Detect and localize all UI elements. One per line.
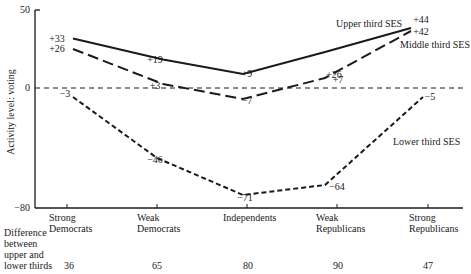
x-label-weak-democrats-2: Democrats bbox=[137, 223, 180, 234]
legend-middle-third-ses: Middle third SES bbox=[400, 39, 470, 50]
difference-row-label: Difference between upper and lower third… bbox=[4, 227, 52, 271]
label-lower-3: −64 bbox=[329, 181, 345, 192]
x-label-independents: Independents bbox=[223, 212, 276, 223]
x-category-labels: Strong Democrats Weak Democrats Independ… bbox=[49, 212, 459, 234]
difference-value-weak-republicans: 90 bbox=[333, 260, 343, 271]
series-lower-third-ses bbox=[73, 97, 423, 195]
x-label-strong-republicans-2: Republicans bbox=[409, 223, 459, 234]
label-upper-1: +19 bbox=[147, 54, 163, 65]
label-upper-2: +9 bbox=[242, 68, 253, 79]
x-label-strong-democrats-1: Strong bbox=[49, 212, 76, 223]
difference-value-weak-democrats: 65 bbox=[152, 260, 162, 271]
difference-label-line-3: upper and bbox=[4, 249, 44, 260]
label-lower-0: −3 bbox=[60, 88, 71, 99]
x-label-weak-republicans-1: Weak bbox=[316, 212, 339, 223]
y-tick-label-neg80: −80 bbox=[14, 202, 30, 213]
difference-value-strong-democrats: 36 bbox=[64, 260, 74, 271]
difference-label-line-4: lower thirds bbox=[4, 260, 52, 271]
label-middle-0: +26 bbox=[49, 43, 65, 54]
label-upper-4: +44 bbox=[413, 14, 429, 25]
y-axis-label: Activity level: voting bbox=[5, 69, 16, 155]
difference-label-line-2: between bbox=[4, 238, 37, 249]
label-middle-1: +3 bbox=[150, 80, 161, 91]
label-lower-4: −5 bbox=[425, 91, 436, 102]
label-lower-2: −71 bbox=[237, 192, 253, 203]
x-label-weak-democrats-1: Weak bbox=[137, 212, 160, 223]
difference-row-values: 36 65 80 90 47 bbox=[64, 260, 433, 271]
x-label-strong-democrats-2: Democrats bbox=[49, 223, 92, 234]
legend-upper-third-ses: Upper third SES bbox=[336, 18, 402, 29]
difference-label-line-1: Difference bbox=[4, 227, 47, 238]
label-middle-2: −7 bbox=[242, 95, 253, 106]
y-tick-label-50: 50 bbox=[20, 4, 30, 15]
label-middle-4: +42 bbox=[413, 26, 429, 37]
label-middle-3: +7 bbox=[333, 74, 344, 85]
difference-value-strong-republicans: 47 bbox=[423, 260, 433, 271]
y-tick-label-0: 0 bbox=[25, 82, 30, 93]
x-label-strong-republicans-1: Strong bbox=[409, 212, 436, 223]
difference-value-independents: 80 bbox=[243, 260, 253, 271]
legend-lower-third-ses: Lower third SES bbox=[393, 136, 460, 147]
label-lower-1: −46 bbox=[147, 154, 163, 165]
x-label-weak-republicans-2: Republicans bbox=[316, 223, 366, 234]
line-chart: 50 0 −80 Activity level: voting +33 +19 … bbox=[0, 0, 471, 274]
